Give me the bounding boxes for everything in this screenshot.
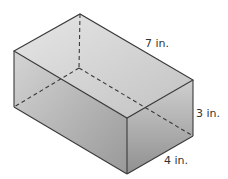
prism-diagram: 7 in. 3 in. 4 in. [0,0,228,179]
height-label: 3 in. [196,107,220,120]
length-label: 7 in. [145,37,169,50]
width-label: 4 in. [164,154,188,167]
